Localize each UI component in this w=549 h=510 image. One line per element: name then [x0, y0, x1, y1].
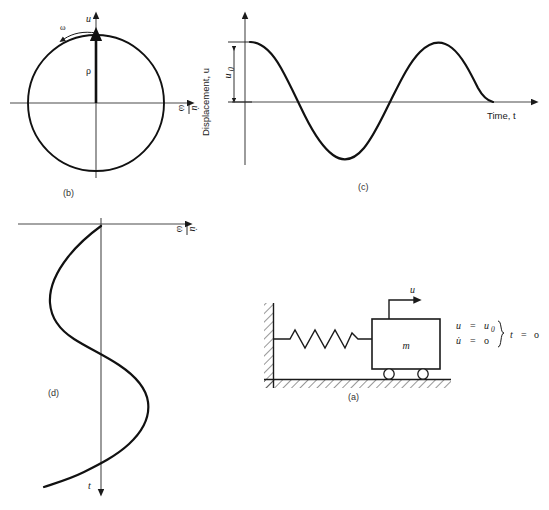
panel-d-velocity-chart: u̇ ω t (d) [18, 218, 199, 491]
panel-a-ground-hatching [264, 379, 451, 388]
panel-a-ic-row0-rhs: u [484, 320, 489, 331]
panel-c-amplitude-sub: 0 [227, 67, 236, 71]
panel-a-brace [498, 321, 504, 347]
panel-c-caption-label: (c) [358, 182, 369, 192]
panel-a-wheel-left [384, 369, 394, 379]
panel-b-udot-omega-label: u̇ ω [177, 102, 201, 114]
panel-a-caption-label: (a) [348, 392, 359, 402]
panel-a-ic-row1-eq: = [470, 335, 476, 346]
panel-a-wall-hatching [264, 303, 273, 388]
panel-a-mass-spring-model: m u u = u 0 u̇ = o t = o (a) [264, 284, 539, 402]
panel-c-amplitude-label: u 0 [222, 67, 236, 79]
panel-b-u-axis-label: u [86, 13, 91, 24]
panel-a-displacement-label: u [410, 284, 415, 295]
panel-a-spring [274, 330, 372, 348]
panel-c-xlabel: Time, t [487, 110, 516, 121]
panel-c-amplitude-u: u [222, 74, 233, 79]
panel-a-ic-row1-lhs: u̇ [456, 335, 461, 346]
panel-a-ic-row0-rhs-sub: 0 [491, 325, 495, 334]
panel-b-omega-denominator: ω [177, 105, 188, 112]
panel-b-rotating-vector: ρ u ω u̇ ω (b) [10, 13, 201, 198]
panel-a-ic-row1-rhs: o [484, 335, 489, 346]
panel-a-condition-time-lhs: t [510, 329, 513, 340]
panel-d-udot-numerator: u̇ [188, 227, 199, 232]
panel-d-sine-curve [44, 226, 148, 487]
panel-a-mass-label: m [402, 340, 409, 351]
panel-a-wheel-right [418, 369, 428, 379]
panel-b-radius-label: ρ [86, 65, 91, 76]
panel-a-condition-time-eq: = [521, 329, 527, 340]
panel-c-ylabel: Displacement, u [200, 68, 211, 136]
panel-a-ic-row0-eq: = [470, 320, 476, 331]
panel-b-omega-label: ω [60, 22, 66, 32]
panel-d-caption-label: (d) [48, 388, 59, 398]
panel-b-caption-label: (b) [63, 188, 74, 198]
panel-c-ylabel-group: Displacement, u [200, 68, 211, 136]
panel-c-cosine-curve [250, 42, 493, 159]
panel-c-displacement-chart: u 0 Displacement, u Time, t (c) [200, 18, 532, 192]
panel-a-displacement-arrow [389, 300, 414, 319]
figure-canvas: ρ u ω u̇ ω (b) u 0 Displacement, u [0, 0, 549, 510]
panel-a-ic-row0-lhs: u [456, 320, 461, 331]
panel-a-initial-conditions: u = u 0 u̇ = o t = o [456, 320, 539, 347]
panel-d-time-label: t [88, 480, 91, 491]
panel-d-omega-denominator: ω [175, 226, 186, 233]
panel-d-udot-omega-label: u̇ ω [175, 223, 199, 235]
panel-a-condition-time-rhs: o [534, 329, 539, 340]
